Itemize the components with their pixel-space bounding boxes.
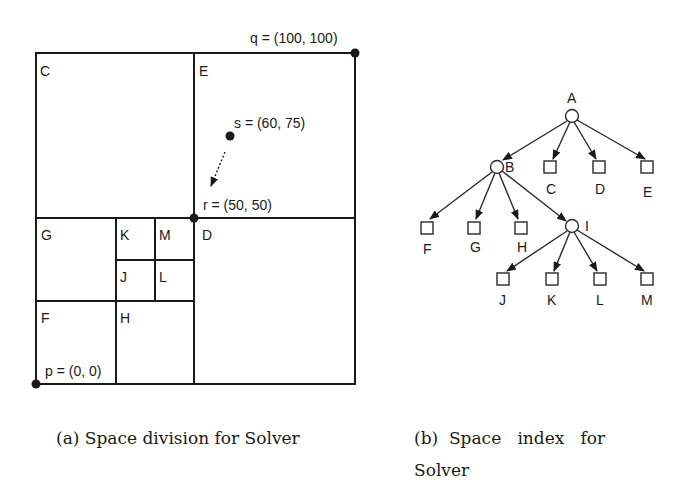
region-label-m: M xyxy=(159,227,171,243)
space-division-diagram: C E G K M D J L F H q = (100, 100) s = (… xyxy=(32,30,360,389)
caption-b-line1: (b) Space index for xyxy=(414,428,606,448)
tree-node-a xyxy=(566,110,579,123)
edge-a-d xyxy=(574,122,596,159)
tree-leaf-g xyxy=(468,222,480,234)
region-label-d: D xyxy=(202,227,212,243)
edge-b-i xyxy=(502,171,566,221)
caption-b-line2: Solver xyxy=(414,460,470,480)
tree-node-i xyxy=(566,220,579,233)
region-label-g: G xyxy=(41,227,52,243)
point-r xyxy=(190,214,199,223)
tree-label-h: H xyxy=(517,239,527,255)
point-q xyxy=(351,49,360,58)
point-s xyxy=(226,132,235,141)
dotted-arrow-s-to-r xyxy=(211,152,225,186)
tree-leaf-k xyxy=(546,273,558,285)
point-r-label: r = (50, 50) xyxy=(203,197,272,213)
figure: C E G K M D J L F H q = (100, 100) s = (… xyxy=(0,0,689,494)
point-s-label: s = (60, 75) xyxy=(234,115,305,131)
tree-leaf-j xyxy=(497,273,509,285)
edge-i-l xyxy=(574,232,597,271)
tree-leaf-d xyxy=(593,161,605,173)
space-index-tree: A B C D E F G H I J K L M xyxy=(421,90,653,308)
tree-leaf-e xyxy=(641,161,653,173)
region-label-e: E xyxy=(199,63,208,79)
edge-i-j xyxy=(507,231,567,271)
tree-label-b: B xyxy=(505,159,514,175)
tree-leaf-h xyxy=(515,222,527,234)
tree-label-i: I xyxy=(585,218,589,234)
edge-b-h xyxy=(499,173,518,219)
edge-i-m xyxy=(577,230,644,271)
tree-label-d: D xyxy=(595,181,605,197)
point-q-label: q = (100, 100) xyxy=(250,30,338,46)
region-label-j: J xyxy=(120,269,127,285)
tree-label-e: E xyxy=(643,184,652,200)
caption-a: (a) Space division for Solver xyxy=(56,428,301,448)
tree-label-a: A xyxy=(567,90,577,106)
region-label-c: C xyxy=(40,63,50,79)
tree-leaf-m xyxy=(641,273,653,285)
region-label-f: F xyxy=(41,310,50,326)
tree-label-l: L xyxy=(596,292,604,308)
tree-label-k: K xyxy=(547,292,557,308)
point-p-label: p = (0, 0) xyxy=(45,363,101,379)
tree-label-f: F xyxy=(423,241,432,257)
edge-b-g xyxy=(476,173,495,219)
tree-label-j: J xyxy=(499,292,506,308)
tree-label-g: G xyxy=(470,239,481,255)
region-label-h: H xyxy=(120,310,130,326)
region-label-l: L xyxy=(159,269,167,285)
region-label-k: K xyxy=(120,227,130,243)
edge-a-e xyxy=(577,120,645,159)
tree-leaf-c xyxy=(544,161,556,173)
tree-label-c: C xyxy=(546,181,556,197)
tree-leaf-l xyxy=(594,273,606,285)
tree-label-m: M xyxy=(641,292,653,308)
tree-leaf-f xyxy=(421,222,433,234)
edge-b-f xyxy=(430,172,492,219)
point-p xyxy=(32,380,41,389)
tree-node-b xyxy=(491,161,504,174)
edge-a-b xyxy=(503,121,567,160)
